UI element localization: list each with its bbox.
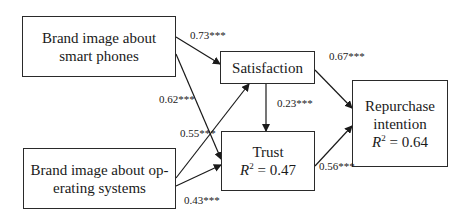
coef-os-to-trust: 0.43*** bbox=[184, 194, 220, 206]
node-brand-image-operating-systems: Brand image about op- erating systems bbox=[23, 148, 176, 209]
node-label-line1: Repurchase bbox=[365, 97, 435, 115]
node-label-line2: smart phones bbox=[59, 47, 139, 65]
node-brand-image-smart-phones: Brand image about smart phones bbox=[22, 16, 176, 77]
coef-os-to-satisfaction: 0.55*** bbox=[180, 127, 216, 139]
coef-phones-to-satisfaction: 0.73*** bbox=[190, 29, 226, 41]
r-squared: R2 = 0.47 bbox=[240, 161, 296, 179]
node-label-line1: Brand image about op- bbox=[31, 161, 169, 179]
coef-trust-to-repurchase: 0.56*** bbox=[319, 160, 355, 172]
node-label-line1: Brand image about bbox=[42, 29, 156, 47]
node-trust: Trust R2 = 0.47 bbox=[221, 131, 315, 191]
arrow-os-to-trust bbox=[176, 165, 221, 186]
r-squared: R2 = 0.64 bbox=[372, 133, 428, 151]
node-label: Satisfaction bbox=[232, 59, 303, 77]
node-label-line2: erating systems bbox=[53, 179, 146, 197]
node-label: Trust bbox=[252, 143, 283, 161]
node-repurchase-intention: Repurchase intention R2 = 0.64 bbox=[352, 80, 448, 167]
coef-satisfaction-to-repurchase: 0.67*** bbox=[329, 50, 365, 62]
node-label-line2: intention bbox=[373, 115, 426, 133]
coef-phones-to-trust: 0.62*** bbox=[159, 93, 195, 105]
node-satisfaction: Satisfaction bbox=[220, 51, 315, 84]
arrow-phones-to-trust bbox=[176, 54, 221, 159]
arrow-satisfaction-to-repurchase bbox=[315, 70, 352, 108]
coef-satisfaction-to-trust: 0.23*** bbox=[277, 97, 313, 109]
arrow-phones-to-satisfaction bbox=[176, 37, 220, 64]
